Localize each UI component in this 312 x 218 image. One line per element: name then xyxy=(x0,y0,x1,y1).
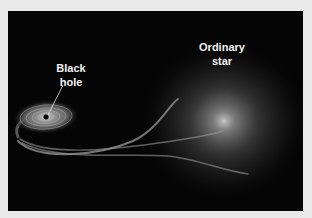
black-hole-label: Black hole xyxy=(46,61,96,89)
black-hole-label-line1: Black xyxy=(46,61,96,75)
illustration-panel: Black hole Ordinary star xyxy=(8,11,303,211)
ordinary-star-label-line2: star xyxy=(191,54,253,68)
black-hole-binary-illustration xyxy=(8,11,303,211)
black-hole-label-line2: hole xyxy=(46,75,96,89)
ordinary-star-label-line1: Ordinary xyxy=(191,40,253,54)
accretion-disk xyxy=(13,99,79,135)
ordinary-star-label: Ordinary star xyxy=(191,40,253,68)
